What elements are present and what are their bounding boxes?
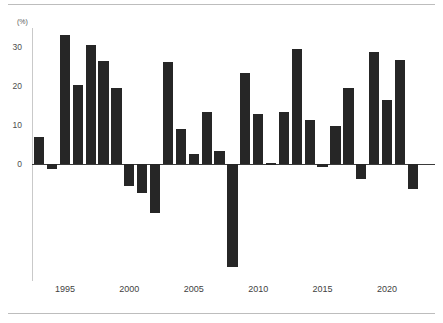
bar [176,129,186,164]
bar [330,126,340,165]
bar [150,164,160,213]
bar [317,164,327,166]
x-axis-tick-label: 2000 [119,284,139,294]
bar [227,164,237,267]
y-axis-tick-label: 30 [0,43,22,51]
bar [382,100,392,164]
bar [395,60,405,165]
y-axis-tick-label: 20 [0,82,22,90]
bar [343,88,353,164]
x-axis-tick-label: 2015 [313,284,333,294]
bar [240,73,250,164]
bar [253,114,263,164]
bar [163,62,173,164]
bar [60,35,70,164]
bar [47,164,57,169]
bar [73,85,83,164]
bar [86,45,96,164]
bar [98,61,108,164]
bar [408,164,418,189]
x-axis-tick-label: 1995 [55,284,75,294]
bar [137,164,147,192]
bar [369,52,379,164]
chart-figure: (%) 0102030 199520002005201020152020 [0,0,443,323]
bar [202,112,212,164]
bar [189,154,199,164]
bottom-divider-rule [8,313,435,314]
bar [34,137,44,164]
y-axis-unit-label: (%) [17,18,28,25]
bar [279,112,289,165]
bar [305,120,315,164]
top-divider-rule [8,4,435,5]
plot-area [33,28,435,281]
bar [214,151,224,164]
y-axis-tick-label: 0 [0,160,22,168]
bar [111,88,121,164]
x-axis-tick-label: 2005 [184,284,204,294]
x-axis-tick-label: 2020 [377,284,397,294]
bar [292,49,302,164]
bar [124,164,134,185]
x-axis-tick-label: 2010 [248,284,268,294]
y-axis-tick-label: 10 [0,121,22,129]
bar [356,164,366,179]
bar [266,163,276,165]
